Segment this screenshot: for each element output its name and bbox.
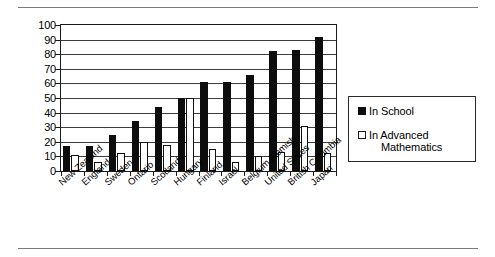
legend-swatch-hollow-icon — [358, 131, 366, 139]
legend-label-in-school: In School — [369, 105, 414, 117]
bar-chart-figure: 0102030405060708090100 New ZealandEnglan… — [0, 0, 495, 257]
legend-item-in-school: In School — [358, 105, 414, 117]
legend-item-in-advanced-mathematics: In AdvancedMathematics — [358, 129, 442, 153]
chart-legend: In School In AdvancedMathematics — [348, 96, 476, 162]
legend-swatch-filled-icon — [358, 107, 366, 115]
legend-label-in-advanced-mathematics: In AdvancedMathematics — [369, 129, 442, 153]
